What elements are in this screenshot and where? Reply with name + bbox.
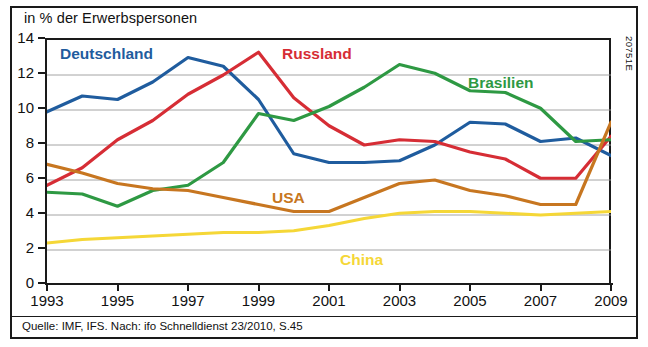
y-tick [38,107,45,109]
x-tick-label: 2009 [586,293,636,308]
y-tick [38,72,45,74]
x-tick [46,285,48,291]
y-tick-label: 2 [8,240,34,255]
y-tick-label: 14 [8,30,34,45]
series-label-deutschland: Deutschland [60,46,153,62]
x-tick-label: 2005 [445,293,495,308]
source-note: Quelle: IMF, IFS. Nach: ifo Schnelldiens… [22,320,303,332]
y-tick [38,212,45,214]
series-label-china: China [340,252,383,268]
series-label-russland: Russland [282,46,352,62]
x-tick [540,285,542,291]
y-tick-label: 0 [8,275,34,290]
x-tick-label: 1999 [234,293,284,308]
x-tick-label: 1993 [22,293,72,308]
series-label-usa: USA [272,190,305,206]
series-label-brasilien: Brasilien [468,75,533,91]
y-tick-label: 6 [8,170,34,185]
x-tick [117,285,119,291]
y-tick [38,282,45,284]
y-tick-label: 12 [8,65,34,80]
axis-unit-title: in % der Erwerbspersonen [24,10,197,26]
chart-figure: in % der Erwerbspersonen 20751E 02468101… [0,0,648,347]
footer-divider [12,316,636,317]
y-tick [38,247,45,249]
x-tick [399,285,401,291]
y-tick-label: 8 [8,135,34,150]
x-tick [328,285,330,291]
y-tick [38,37,45,39]
y-tick-label: 4 [8,205,34,220]
x-tick-label: 2001 [304,293,354,308]
x-tick-label: 1997 [163,293,213,308]
series-line-russland [47,52,611,185]
x-tick [610,285,612,291]
x-tick-label: 2003 [375,293,425,308]
y-tick [38,177,45,179]
x-tick-label: 2007 [516,293,566,308]
x-tick [258,285,260,291]
x-tick [187,285,189,291]
figure-code: 20751E [624,36,635,71]
x-tick [469,285,471,291]
x-tick-label: 1995 [93,293,143,308]
series-line-china [47,212,611,244]
y-tick [38,142,45,144]
y-tick-label: 10 [8,100,34,115]
